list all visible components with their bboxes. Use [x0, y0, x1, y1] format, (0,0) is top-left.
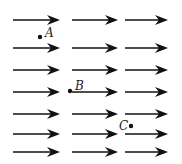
point-b-label: B	[75, 80, 84, 92]
arrow-icon	[125, 109, 168, 119]
point-c-label: C	[119, 120, 128, 132]
arrow-icon	[13, 87, 60, 97]
point-b-dot	[68, 89, 72, 93]
arrow-icon	[125, 129, 168, 139]
arrow-icon	[125, 15, 168, 25]
field-arrows	[0, 0, 182, 164]
point-a-dot	[38, 35, 42, 39]
arrow-icon	[13, 147, 60, 157]
arrow-icon	[72, 147, 118, 157]
arrow-icon	[72, 129, 118, 139]
point-c-dot	[129, 124, 133, 128]
arrow-icon	[125, 43, 168, 53]
arrow-icon	[13, 43, 60, 53]
arrow-icon	[72, 109, 118, 119]
arrow-icon	[13, 109, 60, 119]
arrow-icon	[13, 65, 60, 75]
arrow-icon	[13, 15, 60, 25]
arrow-icon	[72, 43, 118, 53]
field-diagram: ABC	[0, 0, 182, 164]
arrow-icon	[72, 15, 118, 25]
arrow-icon	[125, 147, 168, 157]
point-a-label: A	[45, 27, 54, 39]
arrow-icon	[13, 129, 60, 139]
arrow-icon	[125, 87, 168, 97]
arrow-icon	[72, 65, 118, 75]
arrow-icon	[125, 65, 168, 75]
